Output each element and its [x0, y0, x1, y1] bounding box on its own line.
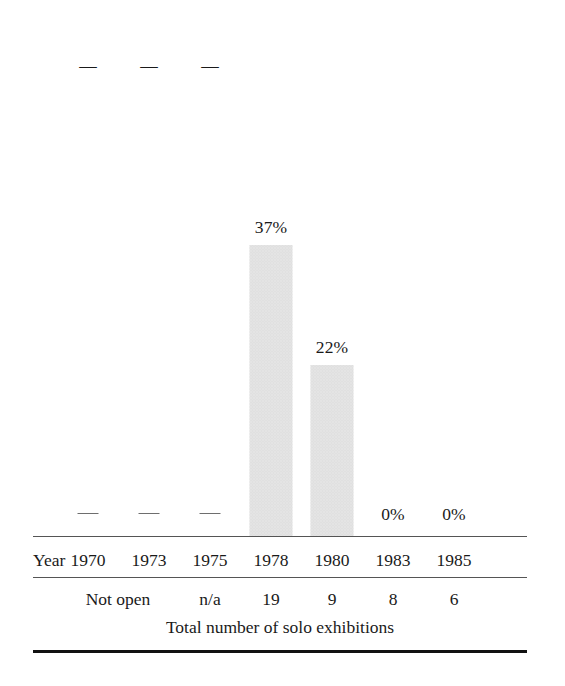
bar-value-label-1975: —: [201, 57, 219, 75]
totals-cell-not-open: Not open: [58, 584, 178, 614]
no-data-dash-1975: [200, 513, 221, 515]
totals-cell-1983: 8: [363, 584, 423, 614]
bar-1980: [311, 365, 354, 536]
year-cell-1975: 1975: [180, 545, 240, 575]
table-rule-top: [33, 536, 527, 537]
table-row-year: Year 1970 1973 1975 1978 1980 1983 1985: [33, 545, 527, 575]
chart-column-1983: 0%: [363, 60, 423, 536]
bar-value-label-1980: 22%: [316, 339, 348, 357]
totals-cell-1980: 9: [302, 584, 362, 614]
bar-value-label-1970: —: [79, 57, 97, 75]
chart-column-1973: —: [119, 60, 179, 536]
table-caption: Total number of solo exhibitions: [33, 615, 527, 639]
chart-column-1978: 37%: [241, 60, 301, 536]
chart-column-1975: —: [180, 60, 240, 536]
totals-cell-1985: 6: [424, 584, 484, 614]
year-cell-1985: 1985: [424, 545, 484, 575]
year-cell-1973: 1973: [119, 545, 179, 575]
year-cell-1983: 1983: [363, 545, 423, 575]
year-cell-1970: 1970: [58, 545, 118, 575]
bar-value-label-1978: 37%: [255, 219, 287, 237]
bar-value-label-1985: 0%: [442, 506, 466, 524]
chart-column-1985: 0%: [424, 60, 484, 536]
table-rule-middle: [33, 577, 527, 578]
no-data-dash-1973: [139, 513, 160, 515]
bar-value-label-1983: 0%: [381, 506, 405, 524]
bar-1978: [250, 245, 293, 536]
bar-chart-plot-area: — — — 37% 22% 0% 0%: [33, 60, 527, 536]
table-rule-bottom: [33, 650, 527, 653]
totals-cell-1975: n/a: [180, 584, 240, 614]
year-cell-1980: 1980: [302, 545, 362, 575]
year-cell-1978: 1978: [241, 545, 301, 575]
chart-column-1980: 22%: [302, 60, 362, 536]
bar-value-label-1973: —: [140, 57, 158, 75]
table-row-totals: Not open n/a 19 9 8 6: [33, 584, 527, 614]
chart-column-1970: —: [58, 60, 118, 536]
solo-exhibitions-figure: — — — 37% 22% 0% 0%: [0, 0, 565, 686]
no-data-dash-1970: [78, 513, 99, 515]
totals-cell-1978: 19: [241, 584, 301, 614]
